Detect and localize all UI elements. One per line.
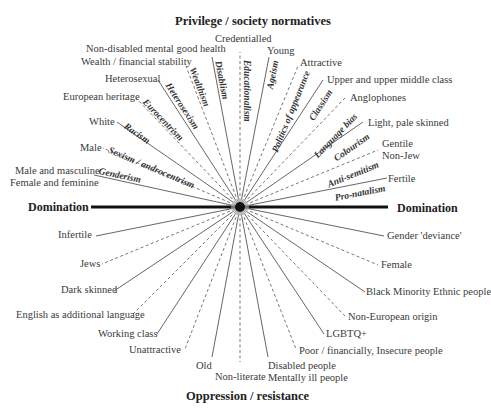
label-lgbtq: LGBTQ+ <box>326 328 367 340</box>
label-anglophones: Anglophones <box>350 92 406 104</box>
label-gentile: Gentile <box>382 138 413 150</box>
label-non-disabled: Non-disabled mental good health <box>86 43 226 55</box>
label-jews: Jews <box>80 258 100 270</box>
spoke-eal <box>133 207 240 314</box>
label-male-masculine: Male and masculine <box>15 165 90 177</box>
label-heterosexual: Heterosexual <box>105 73 160 85</box>
label-gender-deviance: Gender 'deviance' <box>387 230 462 242</box>
label-poor: Poor / financially, Insecure people <box>299 345 443 357</box>
title-privilege: Privilege / society normatives <box>175 14 331 29</box>
label-eal: English as additional language <box>16 309 145 321</box>
label-fertile: Fertile <box>388 173 415 185</box>
label-old: Old <box>196 360 212 372</box>
spoke-disabled <box>240 207 268 357</box>
label-female-feminine: Female and feminine <box>10 177 90 189</box>
label-young: Young <box>267 45 295 57</box>
label-european: European heritage <box>63 91 140 103</box>
spoke-lgbtq <box>240 207 324 334</box>
label-unattractive: Unattractive <box>129 344 181 356</box>
spoke-female <box>240 207 378 265</box>
domination-label-right: Domination <box>397 201 458 216</box>
label-male: Male <box>80 142 102 154</box>
domination-label-left: Domination <box>28 200 89 215</box>
label-light-skinned: Light, pale skinned <box>368 117 449 129</box>
label-non-literate: Non-literate <box>215 371 266 383</box>
label-dark-skinned: Dark skinned <box>61 284 117 296</box>
ism-educationalism: Educationalism <box>242 60 252 122</box>
spoke-poor <box>240 207 296 349</box>
label-upper-class: Upper and upper middle class <box>327 74 452 86</box>
label-wealth: Wealth / financial stability <box>81 56 192 68</box>
label-disabled: Disabled people <box>268 360 336 372</box>
label-working-class: Working class <box>98 328 158 340</box>
center-node <box>235 202 245 212</box>
label-infertile: Infertile <box>58 229 92 241</box>
label-bme: Black Minority Ethnic people <box>366 286 491 298</box>
label-white: White <box>89 116 115 128</box>
spoke-jews <box>102 207 240 264</box>
spoke-non-european <box>240 207 345 316</box>
spoke-old <box>212 207 240 357</box>
label-non-european: Non-European origin <box>348 311 438 323</box>
label-non-jew: Non-Jew <box>382 150 420 162</box>
label-mentally-ill: Mentally ill people <box>268 372 348 384</box>
title-oppression: Oppression / resistance <box>186 389 309 404</box>
label-female: Female <box>381 259 412 271</box>
label-attractive: Attractive <box>300 57 342 69</box>
